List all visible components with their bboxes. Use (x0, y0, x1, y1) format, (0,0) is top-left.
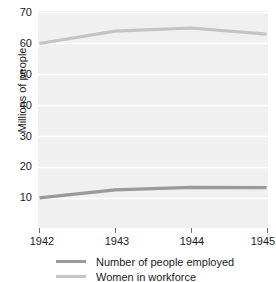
plot-area (38, 11, 268, 228)
series-line-women-in-workforce (40, 28, 267, 44)
legend-label-number-of-people-employed: Number of people employed (96, 256, 234, 268)
x-tick-mark-1945 (267, 228, 268, 233)
line-chart: Millions of people 70 60 50 40 30 20 10 (0, 0, 276, 282)
legend-item-women-in-workforce: Women in workforce (56, 270, 271, 282)
x-tick-label-1942: 1942 (22, 235, 62, 247)
y-tick-label-20: 20 (2, 161, 32, 172)
chart-legend: Number of people employed Women in workf… (56, 255, 271, 282)
legend-label-women-in-workforce: Women in workforce (96, 271, 196, 282)
y-tick-label-70: 70 (2, 7, 32, 18)
x-tick-mark-1943 (115, 228, 116, 233)
legend-swatch-icon-number-of-people-employed (56, 260, 86, 263)
y-axis-title: Millions of people (16, 20, 28, 160)
x-tick-mark-1942 (39, 228, 40, 233)
series-line-number-of-people-employed (40, 187, 267, 198)
y-tick-label-10: 10 (2, 192, 32, 203)
x-tick-label-1943: 1943 (97, 235, 137, 247)
legend-swatch-icon-women-in-workforce (56, 275, 86, 278)
x-tick-label-1945: 1945 (243, 235, 276, 247)
x-tick-mark-1944 (191, 228, 192, 233)
gridlines (38, 13, 268, 199)
legend-item-number-of-people-employed: Number of people employed (56, 255, 271, 268)
x-tick-label-1944: 1944 (172, 235, 212, 247)
plot-canvas (38, 11, 268, 228)
